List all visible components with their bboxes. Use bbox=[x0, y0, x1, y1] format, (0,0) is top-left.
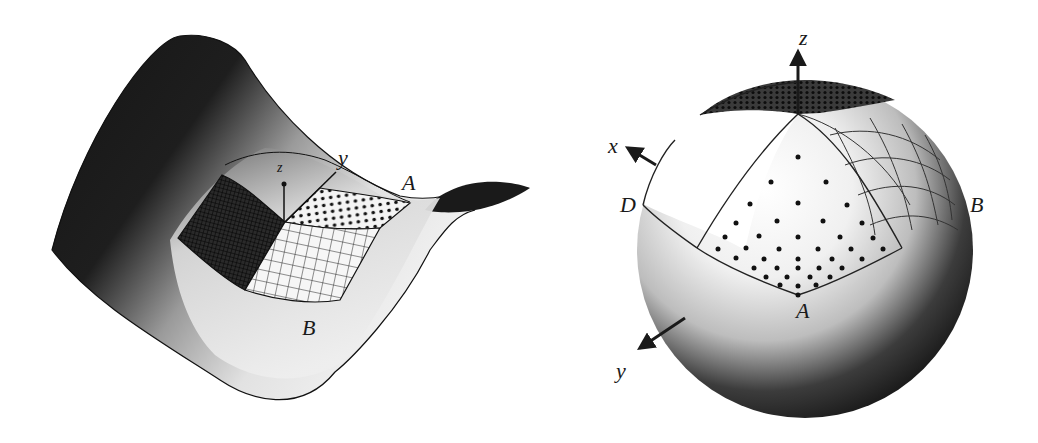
sphere-figure: z x y D B A bbox=[540, 0, 1038, 443]
saddle-right-wing bbox=[425, 182, 530, 213]
saddle-surface-drawing: z y A B bbox=[0, 0, 540, 443]
sphere-y-label: y bbox=[614, 358, 626, 383]
saddle-z-label: z bbox=[276, 160, 283, 175]
saddle-figure: z y A B bbox=[0, 0, 540, 443]
sphere-x-label: x bbox=[607, 133, 618, 158]
saddle-z-axis-tip-icon bbox=[282, 182, 287, 187]
sphere-point-b-label: B bbox=[970, 192, 983, 217]
saddle-point-b-label: B bbox=[302, 315, 315, 340]
saddle-y-label: y bbox=[336, 145, 348, 170]
saddle-point-a-label: A bbox=[400, 170, 416, 195]
sphere-z-label: z bbox=[798, 25, 808, 50]
sphere-drawing: z x y D B A bbox=[540, 0, 1038, 443]
sphere-point-a-label: A bbox=[794, 298, 810, 323]
sphere-point-d-label: D bbox=[619, 192, 636, 217]
